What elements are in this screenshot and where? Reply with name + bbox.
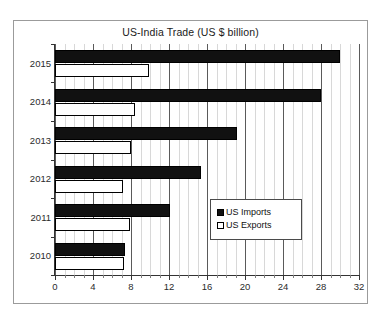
bar-imports-2014[interactable] xyxy=(55,89,321,102)
x-axis-labels: 048121620242832 xyxy=(55,275,359,291)
x-axis-label-20: 20 xyxy=(240,281,251,292)
x-axis-label-28: 28 xyxy=(316,281,327,292)
clipped-header-text xyxy=(0,0,383,9)
y-axis-label-2011: 2011 xyxy=(17,198,51,237)
x-axis-label-16: 16 xyxy=(202,281,213,292)
legend-item-label: US Imports xyxy=(226,207,271,217)
y-tickmark xyxy=(51,237,55,238)
y-tickmark xyxy=(51,44,55,45)
legend-item-label: US Exports xyxy=(226,220,272,230)
x-axis-label-32: 32 xyxy=(354,281,365,292)
bar-imports-2013[interactable] xyxy=(55,127,237,140)
gridline-major xyxy=(359,44,360,275)
bar-exports-2011[interactable] xyxy=(55,218,130,231)
y-tickmark xyxy=(51,198,55,199)
y-axis: 201520142013201220112010 xyxy=(17,44,51,275)
bar-exports-2014[interactable] xyxy=(55,103,135,116)
y-tickmark xyxy=(51,82,55,83)
bar-row xyxy=(55,160,359,199)
y-axis-label-2010: 2010 xyxy=(17,237,51,276)
bar-imports-2011[interactable] xyxy=(55,204,170,217)
bar-exports-2015[interactable] xyxy=(55,64,149,77)
chart-title: US-India Trade (US $ billion) xyxy=(14,26,367,38)
bar-rows xyxy=(55,44,359,275)
x-axis-label-12: 12 xyxy=(164,281,175,292)
bar-imports-2015[interactable] xyxy=(55,50,340,63)
bar-exports-2013[interactable] xyxy=(55,141,131,154)
filled-square-icon xyxy=(217,209,224,216)
bar-row xyxy=(55,237,359,276)
bar-imports-2010[interactable] xyxy=(55,243,125,256)
y-axis-label-2014: 2014 xyxy=(17,83,51,122)
bar-exports-2012[interactable] xyxy=(55,180,123,193)
legend-item-exports[interactable]: US Exports xyxy=(217,220,295,230)
y-axis-label-2015: 2015 xyxy=(17,44,51,83)
bar-exports-2010[interactable] xyxy=(55,257,124,270)
bar-imports-2012[interactable] xyxy=(55,166,201,179)
y-axis-tickmarks xyxy=(55,44,59,275)
bar-row xyxy=(55,121,359,160)
x-tickmark-major xyxy=(359,275,360,280)
bar-row xyxy=(55,44,359,83)
y-tickmark xyxy=(51,121,55,122)
x-axis-label-0: 0 xyxy=(52,281,57,292)
x-axis-label-24: 24 xyxy=(278,281,289,292)
plot-area: 201520142013201220112010 048121620242832 xyxy=(54,44,359,276)
y-axis-label-2013: 2013 xyxy=(17,121,51,160)
y-tickmark xyxy=(51,160,55,161)
bar-row xyxy=(55,198,359,237)
chart-legend: US ImportsUS Exports xyxy=(210,199,302,240)
chart-container: US-India Trade (US $ billion) 2015201420… xyxy=(13,20,368,304)
hollow-square-icon xyxy=(217,222,224,229)
bar-row xyxy=(55,83,359,122)
x-axis-label-4: 4 xyxy=(90,281,95,292)
legend-item-imports[interactable]: US Imports xyxy=(217,207,295,217)
y-axis-label-2012: 2012 xyxy=(17,160,51,199)
x-axis-label-8: 8 xyxy=(128,281,133,292)
